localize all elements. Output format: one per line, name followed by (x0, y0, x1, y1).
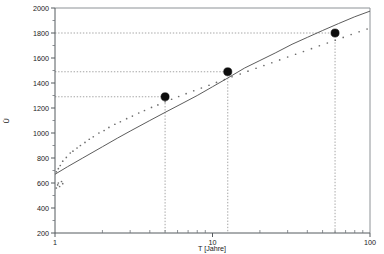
scatter-point (69, 152, 71, 154)
scatter-point (80, 145, 82, 147)
y-tick-label: 400 (37, 204, 49, 213)
scatter-point (62, 160, 64, 162)
scatter-point (84, 142, 86, 144)
scatter-point (326, 42, 328, 44)
scatter-point (103, 130, 105, 132)
scatter-point (72, 150, 74, 152)
y-axis-label: Ü (2, 118, 11, 123)
scatter-point (334, 39, 336, 41)
scatter-point (144, 110, 146, 112)
y-tick-label: 200 (37, 229, 49, 238)
x-axis-label: T [Jahre] (198, 244, 226, 253)
scatter-point (157, 104, 159, 106)
scatter-point (65, 157, 67, 159)
data-point-marker (161, 93, 169, 101)
scatter-point (56, 171, 58, 173)
fitted-curve (55, 11, 370, 174)
y-tick-label: 600 (37, 179, 49, 188)
scatter-point (279, 59, 281, 61)
y-tick-label: 1800 (33, 29, 49, 38)
plot-frame (55, 8, 370, 233)
horizontal-guide-lines (55, 33, 335, 97)
scatter-point (57, 168, 59, 170)
scatter-point (132, 115, 134, 117)
y-tick-label: 1400 (33, 79, 49, 88)
vertical-guide-lines (165, 33, 335, 233)
y-axis-ticks: 200400600800100012001400160018002000 (33, 4, 55, 238)
scatter-point (263, 65, 265, 67)
scatter-point (108, 127, 110, 129)
scatter-point (271, 62, 273, 64)
scatter-point (120, 121, 122, 123)
scatter-point (350, 34, 352, 36)
scatter-point (201, 87, 203, 89)
scatter-point (311, 48, 313, 50)
y-tick-label: 1000 (33, 129, 49, 138)
scatter-point (98, 132, 100, 134)
scatter-point (114, 123, 116, 125)
scatter-point (366, 28, 368, 30)
scatter-point (138, 112, 140, 114)
scatter-point (62, 183, 64, 185)
scatter-point (59, 186, 61, 188)
data-point-marker (224, 68, 232, 76)
scatter-point (151, 107, 153, 109)
axes (55, 8, 370, 233)
scatter-point (303, 51, 305, 53)
data-point-marker (331, 29, 339, 37)
scatter-point (193, 90, 195, 92)
scatter-point (57, 184, 59, 186)
scatter-point (178, 96, 180, 98)
scatter-point (319, 45, 321, 47)
scatter-point (342, 37, 344, 39)
scatter-points (56, 28, 368, 189)
x-tick-label: 100 (364, 238, 376, 247)
scatter-point (61, 181, 63, 183)
scatter-point (59, 165, 61, 167)
scatter-point (239, 73, 241, 75)
y-tick-label: 800 (37, 154, 49, 163)
scatter-point (247, 70, 249, 72)
scatter-point (185, 93, 187, 95)
y-tick-label: 1600 (33, 54, 49, 63)
scatter-point (126, 118, 128, 120)
scatter-point (287, 56, 289, 58)
scatter-point (216, 82, 218, 84)
scatter-point (88, 138, 90, 140)
x-tick-label: 1 (53, 238, 57, 247)
scatter-point (164, 101, 166, 103)
chart-container: 200400600800100012001400160018002000 110… (0, 0, 384, 254)
scatter-point (208, 84, 210, 86)
scatter-point (57, 182, 59, 184)
scatter-point (295, 53, 297, 55)
y-tick-label: 2000 (33, 4, 49, 13)
scatter-point (56, 187, 58, 189)
scatter-point (255, 67, 257, 69)
scatter-point (171, 98, 173, 100)
scatter-point (358, 31, 360, 33)
scatter-point (76, 147, 78, 149)
y-tick-label: 1200 (33, 104, 49, 113)
semilog-plot: 200400600800100012001400160018002000 110… (0, 0, 384, 254)
scatter-point (92, 136, 94, 138)
